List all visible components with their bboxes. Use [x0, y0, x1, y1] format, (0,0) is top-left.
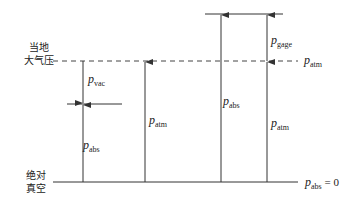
pressure-diagram-canvas	[0, 0, 356, 204]
p-atm-level-label: patm	[304, 54, 322, 69]
absolute-vacuum-label-line2: 真空	[26, 182, 46, 195]
local-atmosphere-label-line2: 大气压	[24, 54, 54, 67]
p-atm-mid-label: patm	[149, 114, 167, 129]
p-gage-label: pgage	[271, 34, 292, 49]
p-abs-zero-label: pabs = 0	[305, 176, 339, 191]
absolute-vacuum-label: 绝对 真空	[26, 169, 46, 195]
local-atmosphere-label-line1: 当地	[24, 41, 54, 54]
p-vac-label: pvac	[88, 73, 105, 88]
p-abs-low-label: pabs	[83, 139, 100, 154]
p-abs-high-label: pabs	[223, 95, 240, 110]
absolute-vacuum-label-line1: 绝对	[26, 169, 46, 182]
p-atm-right-label: patm	[271, 117, 289, 132]
local-atmosphere-label: 当地 大气压	[24, 41, 54, 67]
